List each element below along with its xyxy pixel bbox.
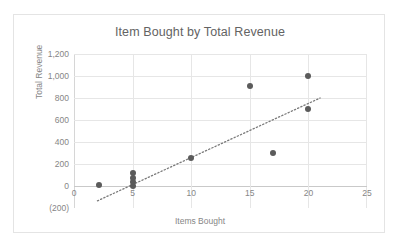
plot-right-edge — [366, 54, 367, 208]
gridline-x — [250, 54, 251, 208]
x-tick-label: 25 — [362, 188, 371, 198]
x-tick-label: 10 — [186, 188, 195, 198]
gridline-y — [74, 98, 367, 99]
x-tick-label: 0 — [72, 188, 77, 198]
plot-area: (200)02004006008001,0001,200 0510152025 — [74, 54, 367, 208]
x-tick-label: 15 — [245, 188, 254, 198]
chart-title: Item Bought by Total Revenue — [14, 25, 386, 39]
y-tick-label: 1,200 — [48, 49, 69, 59]
x-tick-label: 5 — [130, 188, 135, 198]
gridline-y — [74, 120, 367, 121]
chart-container: Item Bought by Total Revenue Total Reven… — [13, 14, 385, 233]
gridline-y — [74, 54, 367, 55]
gridline-y — [74, 164, 367, 165]
y-tick-label: 400 — [55, 137, 69, 147]
data-point — [96, 182, 102, 188]
y-tick-label: 800 — [55, 93, 69, 103]
y-tick-label: 600 — [55, 115, 69, 125]
data-point — [130, 170, 136, 176]
y-tick-label: 0 — [64, 181, 69, 191]
gridline-x — [191, 54, 192, 208]
y-tick-label: 200 — [55, 159, 69, 169]
data-point — [188, 155, 194, 161]
data-point — [305, 73, 311, 79]
data-point — [305, 106, 311, 112]
data-point — [247, 83, 253, 89]
y-axis-line — [74, 54, 75, 208]
y-axis-title: Total Revenue — [34, 45, 44, 99]
x-axis-title: Items Bought — [14, 216, 386, 226]
data-point — [270, 150, 276, 156]
gridline-y — [74, 76, 367, 77]
y-tick-label: 1,000 — [48, 71, 69, 81]
trendline — [74, 54, 367, 208]
x-tick-label: 20 — [304, 188, 313, 198]
y-tick-label: (200) — [49, 203, 69, 213]
x-axis-line — [74, 186, 367, 187]
gridline-y — [74, 142, 367, 143]
